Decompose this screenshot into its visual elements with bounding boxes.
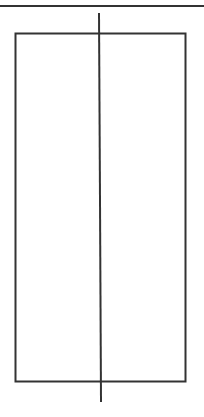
diagram-canvas (0, 0, 204, 417)
vertical-axis-line-lower (100, 200, 101, 402)
vertical-axis-line-upper (99, 13, 100, 200)
